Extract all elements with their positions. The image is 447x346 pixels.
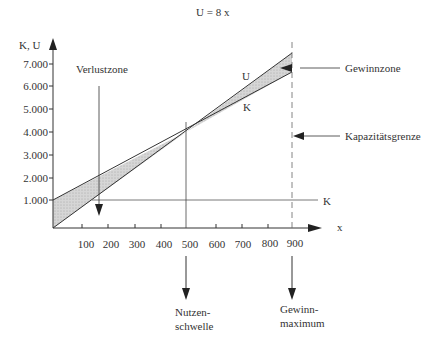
x-tick-label: 900: [287, 237, 304, 249]
revenue-line-u: [53, 53, 292, 228]
chart-title: U = 8 x: [196, 6, 230, 18]
y-tick-label: 5.000: [23, 103, 48, 115]
loss-zone-label: Verlustzone: [76, 63, 128, 75]
curve-label-k: K: [243, 101, 251, 113]
break-even-chart: U = 8 x 1.000 2.000 3.000 4.000 5.000 6.…: [0, 0, 447, 346]
y-tick-label: 4.000: [23, 126, 48, 138]
y-tick-label: 2.000: [23, 172, 48, 184]
y-axis-label: K, U: [19, 39, 40, 51]
y-tick-label: 1.000: [23, 194, 48, 206]
curve-label-u: U: [242, 70, 250, 82]
y-axis-arrow-icon: [49, 38, 57, 50]
x-axis-label: x: [337, 221, 343, 233]
y-tick-label: 7.000: [23, 58, 48, 70]
x-tick-label: 200: [103, 238, 120, 250]
x-tick-label: 500: [182, 238, 199, 250]
y-tick-label: 3.000: [23, 149, 48, 161]
break-even-label-1: Nutzen-: [175, 306, 211, 318]
x-tick-label: 700: [235, 238, 252, 250]
x-tick-label: 800: [262, 237, 279, 249]
cost-line-k: [53, 72, 292, 200]
y-tick-label: 6.000: [23, 80, 48, 92]
x-tick-label: 300: [129, 238, 146, 250]
profit-zone-label: Gewinnzone: [345, 62, 401, 74]
profit-max-label-2: maximum: [280, 317, 325, 329]
x-axis-arrow-icon: [308, 224, 322, 232]
arrow-down-icon: [182, 288, 190, 300]
arrow-left-icon: [293, 132, 304, 140]
x-tick-label: 600: [209, 238, 226, 250]
arrow-down-icon: [288, 288, 296, 300]
fixed-cost-label-k: K: [323, 195, 331, 207]
capacity-limit-label: Kapazitätsgrenze: [345, 130, 421, 142]
x-ticks: [82, 224, 268, 228]
break-even-label-2: schwelle: [175, 320, 214, 332]
arrow-down-icon: [95, 204, 103, 216]
profit-max-label-1: Gewinn-: [280, 303, 319, 315]
x-tick-label: 400: [156, 238, 173, 250]
x-tick-label: 100: [78, 238, 95, 250]
y-ticks: [49, 64, 53, 200]
